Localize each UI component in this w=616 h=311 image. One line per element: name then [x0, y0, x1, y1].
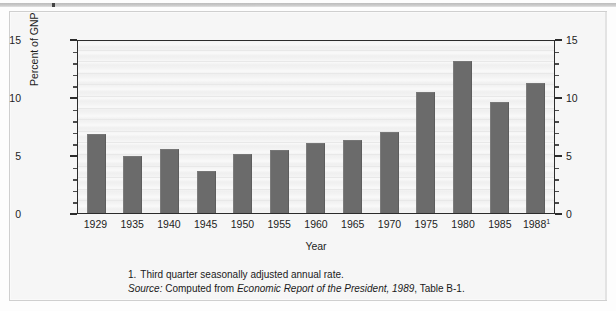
y-axis-left: 051015 [10, 12, 77, 300]
x-axis-footnote-superscript: 1 [546, 218, 550, 225]
y-axis-tick-left [70, 39, 77, 41]
x-axis-tick-label: 1935 [114, 218, 151, 230]
y-axis-minor-tick-left [73, 133, 77, 134]
y-axis-minor-tick-left [73, 75, 77, 76]
y-axis-minor-tick-left [73, 52, 77, 53]
y-axis-minor-tick-right [555, 75, 559, 76]
footnote-marker: 1. [128, 269, 136, 280]
y-axis-tick-label-left: 0 [0, 209, 21, 220]
bar[interactable] [416, 92, 435, 213]
plot-area [77, 40, 555, 214]
figure-notes: 1.Third quarter seasonally adjusted annu… [128, 268, 568, 296]
y-axis-minor-tick-right [555, 86, 559, 87]
x-axis-tick-label: 1965 [334, 218, 371, 230]
y-axis-minor-tick-right [555, 121, 559, 122]
bar[interactable] [197, 171, 216, 213]
x-axis-tick-label-text: 1988 [523, 218, 546, 230]
bar-slot [444, 41, 481, 213]
bar-slot [188, 41, 225, 213]
footnote-text: Third quarter seasonally adjusted annual… [140, 269, 343, 280]
y-axis-minor-tick-left [73, 179, 77, 180]
bar[interactable] [306, 143, 325, 213]
x-axis-tick-label: 1945 [187, 218, 224, 230]
y-axis-minor-tick-right [555, 110, 559, 111]
bar[interactable] [380, 132, 399, 213]
bar[interactable] [160, 149, 179, 213]
bar-series [78, 41, 554, 213]
y-axis-tick-left [70, 97, 77, 99]
x-axis-tick-label: 1970 [371, 218, 408, 230]
bar-slot [115, 41, 152, 213]
y-axis-minor-tick-right [555, 202, 559, 203]
bar[interactable] [453, 61, 472, 213]
y-axis-tick-left [70, 155, 77, 157]
bar[interactable] [270, 150, 289, 213]
y-axis-minor-tick-right [555, 191, 559, 192]
y-axis-minor-tick-left [73, 168, 77, 169]
bar-slot [371, 41, 408, 213]
y-axis-minor-tick-right [555, 168, 559, 169]
y-axis-minor-tick-left [73, 191, 77, 192]
bar-slot [224, 41, 261, 213]
figure-frame: Percent of GNP 051015 051015 19291935194… [9, 11, 607, 301]
y-axis-minor-tick-right [555, 63, 559, 64]
x-axis-tick-label: 1940 [151, 218, 188, 230]
x-axis-tick-label: 1950 [224, 218, 261, 230]
x-axis-tick-label: 1985 [481, 218, 518, 230]
bar[interactable] [87, 134, 106, 213]
bar-slot [334, 41, 371, 213]
y-axis-tick-label-right: 0 [566, 209, 572, 220]
y-axis-minor-tick-right [555, 52, 559, 53]
scan-artifact-strip [0, 3, 616, 7]
y-axis-minor-tick-right [555, 144, 559, 145]
y-axis-tick-left [70, 213, 77, 215]
y-axis-minor-tick-right [555, 133, 559, 134]
bar[interactable] [490, 102, 509, 213]
bar[interactable] [526, 83, 545, 213]
bar[interactable] [233, 154, 252, 213]
y-axis-minor-tick-left [73, 63, 77, 64]
y-axis-tick-label-right: 15 [566, 35, 578, 46]
y-axis-tick-label-left: 5 [0, 151, 21, 162]
y-axis-tick-label-right: 5 [566, 151, 572, 162]
y-axis-minor-tick-left [73, 144, 77, 145]
x-axis-tick-label: 1980 [445, 218, 482, 230]
scan-artifact-speck [52, 3, 55, 7]
bar-slot [261, 41, 298, 213]
y-axis-tick-label-right: 10 [566, 93, 578, 104]
y-axis-right: 051015 [555, 12, 615, 300]
y-axis-tick-label-left: 10 [0, 93, 21, 104]
source-label: Source: [128, 283, 162, 294]
bar-slot [151, 41, 188, 213]
source-publication: Economic Report of the President, 1989 [237, 283, 414, 294]
x-axis-title: Year [77, 240, 555, 252]
x-axis-tick-label: 1955 [261, 218, 298, 230]
y-axis-tick-right [555, 155, 562, 157]
y-axis-tick-label-left: 15 [0, 35, 21, 46]
bar[interactable] [343, 140, 362, 213]
bar-slot [481, 41, 518, 213]
source-prefix: Computed from [165, 283, 234, 294]
bar-slot [298, 41, 335, 213]
y-axis-minor-tick-left [73, 86, 77, 87]
y-axis-minor-tick-left [73, 202, 77, 203]
y-axis-tick-right [555, 39, 562, 41]
bar-slot [78, 41, 115, 213]
bar[interactable] [123, 156, 142, 213]
y-axis-minor-tick-left [73, 110, 77, 111]
bar-slot [407, 41, 444, 213]
bar-slot [517, 41, 554, 213]
x-axis-labels: 1929193519401945195019551960196519701975… [77, 218, 555, 230]
source-suffix: , Table B-1. [414, 283, 464, 294]
source-line: Source: Computed from Economic Report of… [128, 282, 568, 296]
y-axis-tick-right [555, 213, 562, 215]
y-axis-minor-tick-right [555, 179, 559, 180]
y-axis-minor-tick-left [73, 121, 77, 122]
x-axis-tick-label: 1929 [77, 218, 114, 230]
y-axis-tick-right [555, 97, 562, 99]
x-axis-tick-label: 19881 [518, 218, 555, 230]
x-axis-tick-label: 1960 [298, 218, 335, 230]
figure-container: Percent of GNP 051015 051015 19291935194… [0, 0, 616, 311]
x-axis-tick-label: 1975 [408, 218, 445, 230]
footnote-line: 1.Third quarter seasonally adjusted annu… [128, 268, 568, 282]
